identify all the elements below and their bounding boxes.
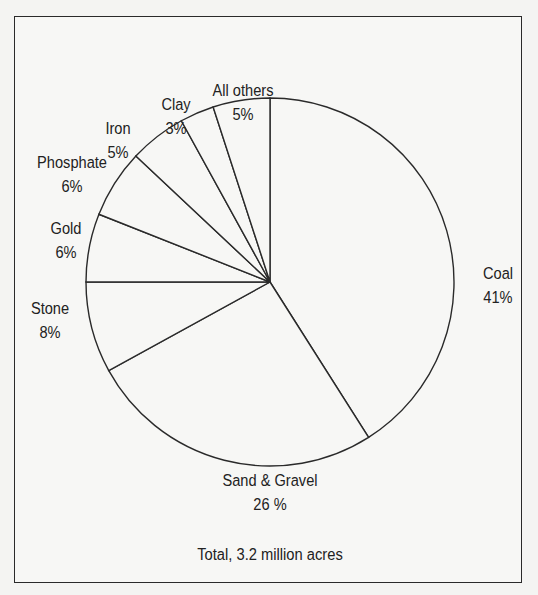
slice-value-label: 5% <box>107 143 128 161</box>
pie-slices <box>86 98 454 466</box>
slice-label: Iron <box>105 119 130 137</box>
slice-label: Clay <box>161 95 190 113</box>
slice-label: Gold <box>51 219 82 237</box>
slice-value-label: 5% <box>232 105 253 123</box>
slice-label: All others <box>213 81 274 99</box>
slice-label: Coal <box>483 264 513 282</box>
slice-value-label: 8% <box>39 323 60 341</box>
slice-value-label: 3% <box>165 119 186 137</box>
pie-chart: Coal41%Sand & Gravel26 %Stone8%Gold6%Pho… <box>0 0 538 595</box>
slice-value-label: 6% <box>61 177 82 195</box>
slice-label: Phosphate <box>37 153 107 171</box>
slice-label: Sand & Gravel <box>222 471 317 489</box>
slice-value-label: 41% <box>483 288 512 306</box>
slice-value-label: 6% <box>55 243 76 261</box>
slice-label: Stone <box>31 299 69 317</box>
slice-value-label: 26 % <box>253 495 286 513</box>
chart-footnote: Total, 3.2 million acres <box>197 545 343 563</box>
